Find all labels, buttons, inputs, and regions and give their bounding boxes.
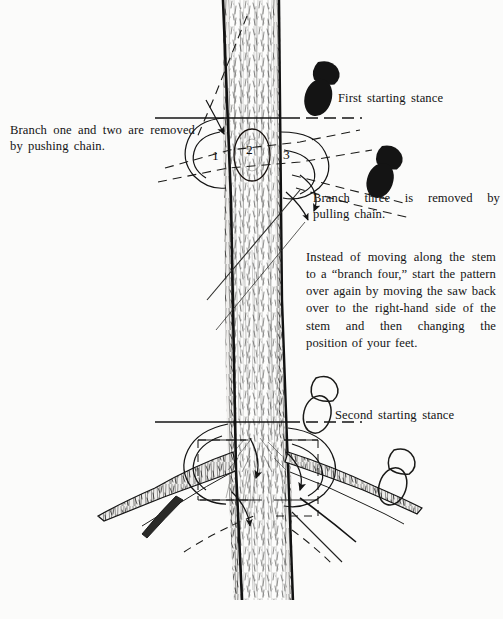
caption-first-starting-stance: First starting stance [338,90,443,106]
caption-second-starting-stance: Second starting stance [335,407,454,423]
caption-left-note: Branch one and two are removed by pushin… [10,122,195,155]
figure-page: Branch one and two are removed by pushin… [0,0,503,619]
label-branch-one: 1 [212,148,219,164]
caption-branch-three: Branch three is removed by pulling chain… [313,190,500,223]
label-branch-three: 3 [283,147,290,163]
caption-instead-paragraph: Instead of moving along the stem to a “b… [306,249,496,352]
label-branch-two: 2 [246,142,253,158]
